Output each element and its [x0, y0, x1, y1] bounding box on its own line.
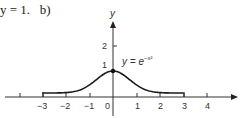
equation-exponent: −x²	[144, 55, 153, 61]
x-tick-label-1: 1	[135, 101, 140, 111]
equation-label: y = e−x²	[121, 55, 152, 67]
gaussian-chart: y 2 1 −3 −2 −1 0 1 2 3 4 y = e−x²	[0, 0, 241, 118]
x-tick-label-0: 0	[105, 101, 110, 111]
x-tick-label--3: −3	[37, 101, 47, 111]
x-tick-label--2: −2	[60, 101, 70, 111]
y-ticks: 2 1	[102, 41, 117, 70]
y-axis-label: y	[109, 8, 116, 19]
x-axis-arrow-icon	[231, 94, 238, 100]
y-tick-label-2: 2	[102, 41, 107, 51]
maximum-point	[111, 69, 115, 73]
x-tick-label-3: 3	[182, 101, 187, 111]
equation-base: y = e	[121, 56, 144, 67]
x-ticks: −3 −2 −1 0 1 2 3 4	[20, 93, 210, 111]
x-tick-label--1: −1	[84, 101, 94, 111]
y-tick-label-1: 1	[102, 60, 107, 70]
y-axis-arrow-icon	[110, 21, 116, 28]
x-tick-label-2: 2	[158, 101, 163, 111]
x-tick-label-4: 4	[205, 101, 210, 111]
